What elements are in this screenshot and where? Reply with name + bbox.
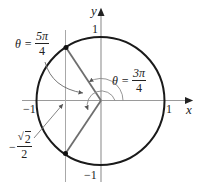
leader-5pi-4 xyxy=(45,62,83,93)
fraction: √ 2 2 xyxy=(17,133,32,160)
x-coordinate-label: − √ 2 2 xyxy=(9,133,32,160)
theta-equals: θ = xyxy=(112,75,129,87)
numerator: 5π xyxy=(35,30,49,44)
denominator: 4 xyxy=(136,81,142,94)
theta-equals: θ = xyxy=(15,38,32,50)
terminal-line-lower xyxy=(66,101,102,154)
leader-sqrt2 xyxy=(34,104,63,138)
angle-label-5pi-4: θ = 5π 4 xyxy=(15,30,49,57)
angle-label-3pi-4: θ = 3π 4 xyxy=(112,67,146,94)
numerator: 3π xyxy=(132,67,146,81)
tick-y-neg: −1 xyxy=(84,169,97,181)
tick-x-pos: 1 xyxy=(166,103,172,115)
denominator: 4 xyxy=(39,44,45,57)
fraction: 3π 4 xyxy=(132,67,146,94)
radical-sign: √ xyxy=(18,131,24,142)
point-upper xyxy=(64,45,69,50)
minus-sign: − xyxy=(9,141,16,153)
tick-x-neg: −1 xyxy=(23,103,36,115)
denominator: 2 xyxy=(21,147,27,160)
point-lower xyxy=(63,151,68,156)
y-axis-label: y xyxy=(91,4,97,17)
tick-y-pos: 1 xyxy=(92,23,98,35)
unit-circle-diagram: y x 1 1 −1 −1 θ = 5π 4 θ = 3π 4 − √ 2 2 xyxy=(0,0,204,189)
radicand: 2 xyxy=(25,131,31,146)
diagram-canvas xyxy=(0,0,204,189)
fraction: 5π 4 xyxy=(35,30,49,57)
x-axis-label: x xyxy=(186,103,192,116)
numerator: √ 2 xyxy=(17,133,32,147)
square-root: √ 2 xyxy=(18,132,31,146)
